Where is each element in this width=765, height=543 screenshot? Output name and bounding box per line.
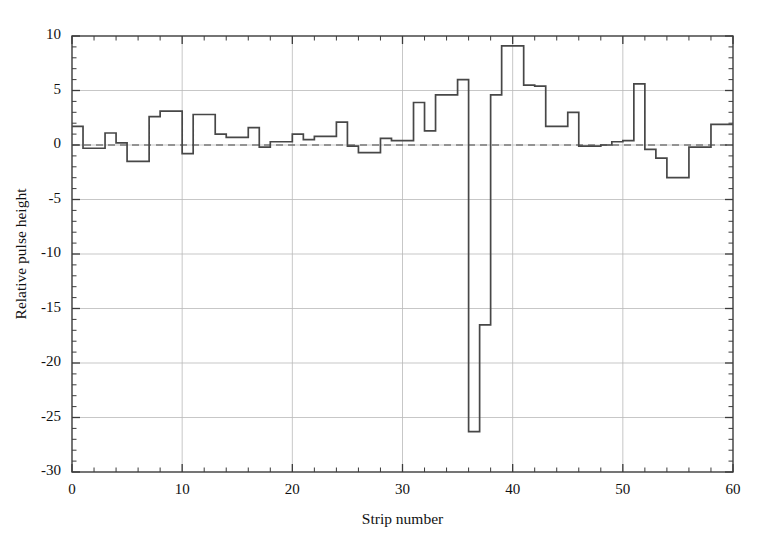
- y-tick-label: -30: [41, 462, 61, 478]
- x-axis-title: Strip number: [362, 510, 444, 527]
- y-tick-label: -10: [41, 244, 61, 260]
- y-axis-title: Relative pulse height: [12, 188, 29, 320]
- y-tick-label: 10: [46, 26, 61, 42]
- y-axis-tick-labels: 1050-5-10-15-20-25-30: [41, 26, 61, 478]
- x-tick-label: 40: [505, 481, 520, 497]
- x-tick-label: 60: [726, 481, 741, 497]
- chart-figure: 1050-5-10-15-20-25-30 0102030405060 Rela…: [0, 0, 765, 543]
- x-tick-label: 0: [68, 481, 76, 497]
- x-axis-tick-labels: 0102030405060: [68, 481, 740, 497]
- relative-pulse-height-step-chart: 1050-5-10-15-20-25-30 0102030405060 Rela…: [0, 0, 765, 543]
- y-tick-label: 0: [54, 135, 62, 151]
- x-tick-label: 10: [175, 481, 190, 497]
- y-tick-label: 5: [54, 81, 62, 97]
- y-tick-label: -15: [41, 299, 61, 315]
- y-tick-label: -5: [49, 190, 62, 206]
- x-tick-label: 20: [285, 481, 300, 497]
- y-tick-label: -20: [41, 353, 61, 369]
- x-tick-label: 30: [395, 481, 410, 497]
- y-tick-label: -25: [41, 408, 61, 424]
- x-tick-label: 50: [615, 481, 630, 497]
